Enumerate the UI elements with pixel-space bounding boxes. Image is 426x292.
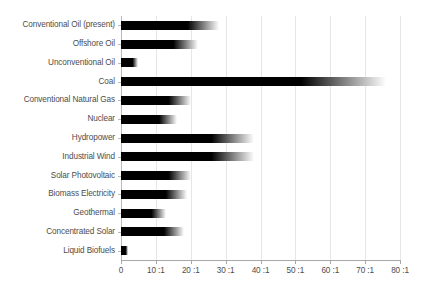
y-tick [118,25,121,26]
bar [121,134,254,143]
gridline-40 [261,16,262,260]
x-tick-mark [156,260,157,264]
bar [121,209,166,218]
x-tick-mark [191,260,192,264]
y-tick [118,138,121,139]
category-label: Solar Photovoltaic [0,171,115,181]
x-tick-label: 0 [119,266,123,275]
bar [121,190,187,199]
gridline-60 [330,16,331,260]
y-tick [118,232,121,233]
bar [121,171,191,180]
category-label: Geothermal [0,208,115,218]
eroi-bar-chart: Conventional Oil (present)Offshore OilUn… [0,0,426,292]
bar [121,246,128,255]
x-tick-mark [400,260,401,264]
x-tick-label: 80 :1 [391,266,409,275]
y-tick [118,251,121,252]
x-tick-mark [226,260,227,264]
category-axis-labels: Conventional Oil (present)Offshore OilUn… [0,16,115,260]
bar [121,21,219,30]
y-tick [118,157,121,158]
y-tick [118,194,121,195]
category-label: Conventional Oil (present) [0,20,115,30]
x-tick-label: 50 :1 [287,266,305,275]
category-label: Offshore Oil [0,39,115,49]
category-label: Liquid Biofuels [0,246,115,256]
category-label: Industrial Wind [0,152,115,162]
x-tick-mark [330,260,331,264]
bar [121,227,184,236]
bar [121,77,386,86]
y-tick [118,176,121,177]
x-tick-mark [121,260,122,264]
x-tick-label: 10 :1 [147,266,165,275]
category-label: Unconventional Oil [0,58,115,68]
x-tick-mark [295,260,296,264]
x-tick-label: 30 :1 [217,266,235,275]
y-tick [118,100,121,101]
x-tick-mark [365,260,366,264]
x-tick-mark [261,260,262,264]
bar [121,40,198,49]
plot-area [121,16,400,260]
category-label: Coal [0,77,115,87]
y-tick [118,63,121,64]
gridline-70 [365,16,366,260]
y-tick [118,44,121,45]
x-tick-label: 70 :1 [356,266,374,275]
category-label: Biomass Electricity [0,189,115,199]
bar [121,152,254,161]
gridline-50 [295,16,296,260]
y-tick [118,82,121,83]
bar [121,96,191,105]
gridline-80 [400,16,401,260]
y-tick [118,119,121,120]
x-tick-label: 20 :1 [182,266,200,275]
category-label: Nuclear [0,114,115,124]
bar [121,58,138,67]
x-tick-label: 60 :1 [321,266,339,275]
bar [121,115,177,124]
category-label: Concentrated Solar [0,227,115,237]
x-tick-label: 40 :1 [252,266,270,275]
y-tick [118,213,121,214]
category-label: Conventional Natural Gas [0,95,115,105]
category-label: Hydropower [0,133,115,143]
